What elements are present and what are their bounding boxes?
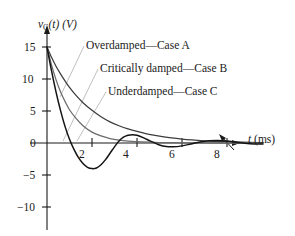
y-tick-label-minus-10: −10 (17, 201, 35, 213)
annotation-critically-damped-case-b: Critically damped—Case B (100, 62, 227, 74)
chart-plot-svg (0, 0, 295, 236)
annotation-leader-lines (60, 46, 106, 141)
y-tick-label-10: 10 (22, 73, 34, 85)
x-axis-title-units: (ms) (251, 133, 275, 145)
x-tick-label-4: 4 (123, 148, 129, 160)
y-tick-label-5: 5 (30, 105, 36, 117)
figure-container: vC(t) (V) t (ms) 15 10 5 0 −5 −10 2 4 6 … (0, 0, 295, 236)
y-tick-label-0: 0 (30, 137, 36, 149)
x-axis-title: t (ms) (248, 133, 275, 145)
y-axis-title-rest: (t) (V) (48, 18, 76, 30)
x-tick-label-6: 6 (169, 148, 175, 160)
x-tick-label-8: 8 (214, 148, 220, 160)
annotation-overdamped-case-a: Overdamped—Case A (86, 39, 190, 51)
y-tick-label-15: 15 (24, 41, 36, 53)
y-tick-label-minus-5: −5 (23, 169, 35, 181)
annotation-underdamped-case-c: Underdamped—Case C (108, 85, 218, 97)
x-tick-label-2: 2 (79, 148, 85, 160)
leader-line-overdamped (60, 46, 84, 97)
y-axis-title: vC(t) (V) (38, 18, 77, 32)
